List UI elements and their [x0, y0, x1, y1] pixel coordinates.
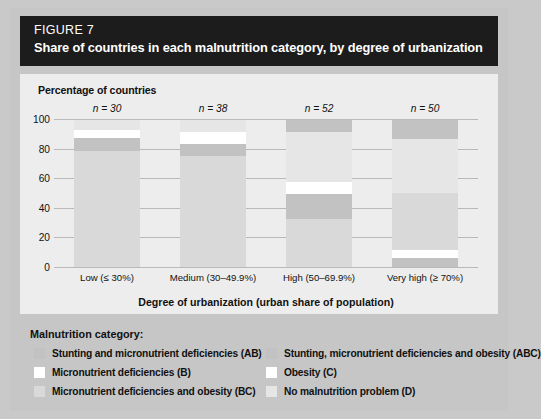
bar-segment-ab[interactable]: [74, 138, 140, 151]
bar-segment-d[interactable]: [180, 120, 246, 132]
x-tick-label: Low (≤ 30%): [48, 272, 166, 283]
y-tick-label: 100: [26, 114, 50, 125]
legend-item[interactable]: Stunting and micronutrient deficiencies …: [34, 346, 262, 361]
bar-stack[interactable]: n = 30: [74, 120, 140, 268]
y-tick-label: 0: [26, 262, 50, 273]
y-tick-label: 80: [26, 144, 50, 155]
legend-swatch-icon: [266, 348, 277, 359]
legend-label: Micronutrient deficiencies (B): [52, 367, 191, 378]
bar-segment-d[interactable]: [74, 120, 140, 130]
legend-label: Obesity (C): [284, 367, 337, 378]
figure-header: FIGURE 7 Share of countries in each maln…: [20, 16, 498, 66]
legend: Malnutrition category: Stunting and micr…: [20, 322, 498, 411]
group-sample-size-label: n = 30: [74, 103, 140, 114]
legend-title: Malnutrition category:: [30, 328, 498, 340]
figure-card: FIGURE 7 Share of countries in each maln…: [10, 8, 508, 411]
group-sample-size-label: n = 38: [180, 103, 246, 114]
plot-area: n = 30n = 38n = 52n = 50 Low (≤ 30%)Medi…: [54, 120, 478, 268]
x-tick-label: Very high (≥ 70%): [366, 272, 484, 283]
x-tick-label: High (50–69.9%): [260, 272, 378, 283]
bar-stack[interactable]: n = 50: [392, 120, 458, 268]
legend-label: No malnutrition problem (D): [284, 386, 415, 397]
x-axis-line: [54, 267, 478, 268]
y-tick-label: 20: [26, 232, 50, 243]
chart-panel: Percentage of countries 020406080100 n =…: [20, 74, 498, 314]
y-axis-title: Percentage of countries: [38, 84, 156, 96]
bar-stack[interactable]: n = 52: [286, 120, 352, 268]
legend-item[interactable]: Micronutrient deficiencies and obesity (…: [34, 384, 256, 399]
bar-segment-c[interactable]: [180, 132, 246, 144]
y-axis: 020406080100: [20, 120, 50, 268]
bar-segment-d[interactable]: [392, 139, 458, 192]
figure-number-label: FIGURE 7: [34, 23, 498, 38]
legend-swatch-icon: [34, 367, 45, 378]
legend-item[interactable]: Stunting, micronutrient deficiencies and…: [266, 346, 541, 361]
group-sample-size-label: n = 50: [392, 103, 458, 114]
group-sample-size-label: n = 52: [286, 103, 352, 114]
bar-segment-d[interactable]: [286, 132, 352, 182]
bar-segment-ab[interactable]: [180, 144, 246, 156]
bar-stack[interactable]: n = 38: [180, 120, 246, 268]
legend-label: Stunting and micronutrient deficiencies …: [52, 348, 262, 359]
bar-segment-bc[interactable]: [180, 156, 246, 268]
figure-title: Share of countries in each malnutrition …: [34, 40, 498, 56]
bar-segment-bc[interactable]: [392, 193, 458, 251]
x-axis-title: Degree of urbanization (urban share of p…: [54, 296, 478, 308]
bar-segment-c[interactable]: [74, 130, 140, 137]
x-tick-label: Medium (30–49.9%): [154, 272, 272, 283]
bar-segment-abc[interactable]: [286, 120, 352, 132]
bar-segment-ab[interactable]: [286, 194, 352, 219]
legend-swatch-icon: [34, 386, 45, 397]
y-tick-label: 60: [26, 173, 50, 184]
legend-item[interactable]: No malnutrition problem (D): [266, 384, 415, 399]
legend-label: Micronutrient deficiencies and obesity (…: [52, 386, 256, 397]
legend-item[interactable]: Micronutrient deficiencies (B): [34, 365, 191, 380]
y-tick-label: 40: [26, 203, 50, 214]
legend-swatch-icon: [266, 367, 277, 378]
bar-segment-c[interactable]: [286, 182, 352, 194]
bar-segment-abc[interactable]: [392, 120, 458, 139]
bar-segment-bc[interactable]: [74, 151, 140, 268]
legend-swatch-icon: [266, 386, 277, 397]
legend-label: Stunting, micronutrient deficiencies and…: [284, 348, 541, 359]
bar-segment-bc[interactable]: [286, 219, 352, 268]
legend-item[interactable]: Obesity (C): [266, 365, 337, 380]
legend-swatch-icon: [34, 348, 45, 359]
bar-segment-c[interactable]: [392, 250, 458, 257]
